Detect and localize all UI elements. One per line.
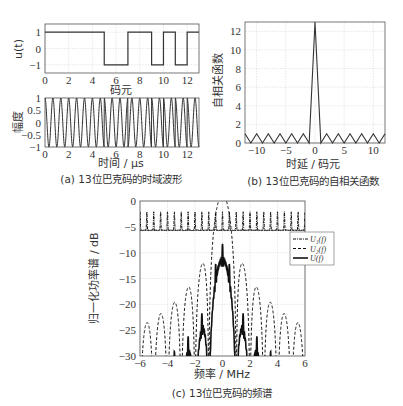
y-tick-label: 0	[236, 137, 242, 149]
y-tick-label: 1	[36, 26, 42, 38]
x-tick-label: −10	[248, 144, 266, 156]
spectrum-legend: U₁(f) U₂(f) U(f)	[290, 232, 334, 265]
y-tick-label: 1	[36, 92, 42, 104]
x-tick-label: 10	[158, 148, 170, 160]
a-top-ylabel: u(t)	[12, 39, 25, 59]
y-tick-label: −10	[119, 247, 137, 259]
y-tick-label: −30	[119, 350, 137, 362]
y-tick-label: 4	[236, 100, 242, 112]
x-tick-label: 0	[42, 74, 48, 86]
x-tick-label: 10	[158, 74, 170, 86]
y-tick-label: −15	[119, 273, 137, 285]
y-tick-label: 0	[131, 195, 137, 207]
y-tick-label: 0	[36, 43, 42, 55]
chart-a-bottom: 024681012−1−0.500.51	[21, 92, 199, 160]
c-xlabel: 频率 / MHz	[194, 367, 250, 381]
y-tick-label: −25	[119, 324, 137, 336]
x-tick-label: 4	[90, 148, 96, 160]
y-tick-label: 10	[230, 44, 242, 56]
x-tick-label: 0	[312, 144, 318, 156]
x-tick-label: −5	[280, 144, 292, 156]
y-tick-label: 2	[236, 118, 242, 130]
x-tick-label: 5	[341, 144, 347, 156]
x-tick-label: −4	[162, 357, 174, 369]
figure-canvas: 024681012−101 u(t) 码元 024681012−1−0.500.…	[0, 0, 403, 406]
y-tick-label: 12	[230, 25, 241, 37]
y-tick-label: −5	[124, 221, 136, 233]
y-tick-label: 0.5	[27, 104, 41, 116]
a-bottom-ylabel: 幅度	[11, 111, 25, 133]
x-tick-label: 4	[90, 74, 96, 86]
chart-a-top: 024681012−101	[29, 24, 199, 86]
a-top-xlabel: 码元	[110, 84, 132, 97]
y-tick-label: 6	[236, 81, 242, 93]
c-ylabel: 归一化功率谱 / dB	[87, 232, 101, 323]
b-xlabel: 时延 / 码元	[286, 158, 341, 171]
legend-u1-label: U₁(f)	[310, 235, 326, 244]
x-tick-label: 6	[302, 357, 308, 369]
b-ylabel: 自相关函数	[211, 53, 225, 108]
y-tick-label: −1	[29, 59, 41, 71]
y-tick-label: −1	[29, 141, 41, 153]
caption-a: (a) 13位巴克码的时域波形	[60, 173, 182, 185]
y-tick-label: 8	[236, 63, 242, 75]
chart-c: −6−4−20246−30−25−20−15−10−50	[119, 195, 308, 369]
legend-u2-label: U₂(f)	[310, 245, 326, 254]
y-tick-label: 0	[36, 117, 42, 129]
caption-c: (c) 13位巴克码的频谱	[172, 387, 274, 399]
legend-u-label: U(f)	[310, 254, 324, 263]
y-tick-label: −20	[119, 298, 137, 310]
x-tick-label: 0	[42, 148, 48, 160]
caption-b: (b) 13位巴克码的自相关函数	[247, 175, 380, 187]
x-tick-label: 8	[137, 74, 143, 86]
x-tick-label: 4	[275, 357, 281, 369]
x-tick-label: 2	[66, 74, 72, 86]
series-u-line	[140, 244, 305, 361]
x-tick-label: 12	[182, 148, 193, 160]
x-tick-label: 10	[368, 144, 380, 156]
chart-b: −10−50510024681012	[230, 22, 385, 156]
x-tick-label: 2	[66, 148, 72, 160]
x-tick-label: 12	[182, 74, 193, 86]
a-bottom-xlabel: 时间 / μs	[98, 157, 144, 170]
